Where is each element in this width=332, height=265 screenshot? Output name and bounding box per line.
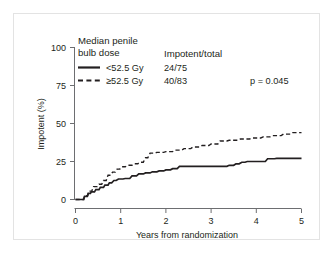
x-tick-label-3: 3: [209, 216, 214, 226]
figure-container: 100 75 50 25 0 0 1 2 3 4 5 Years from ra…: [0, 0, 332, 265]
stats-value-series-0: 24/75: [164, 63, 187, 73]
x-tick-label-0: 0: [73, 216, 78, 226]
legend: Median penile bulb dose <52.5 Gy ≥52.5 G…: [78, 35, 144, 86]
stats-header: Impotent/total: [164, 48, 222, 59]
y-tick-label-100: 100: [51, 43, 66, 53]
y-tick-label-25: 25: [56, 157, 66, 167]
y-tick-label-50: 50: [56, 119, 66, 129]
series-line-lt-52-5-gy: [76, 158, 302, 199]
y-tick-label-0: 0: [61, 195, 66, 205]
legend-title-line1: Median penile: [78, 35, 138, 46]
x-tick-label-5: 5: [299, 216, 304, 226]
legend-label-series-0: <52.5 Gy: [106, 63, 144, 73]
x-tick-label-4: 4: [254, 216, 259, 226]
y-axis-ticks: [70, 48, 75, 200]
stats-block: Impotent/total 24/75 40/83 p = 0.045: [164, 48, 289, 86]
y-tick-label-75: 75: [56, 81, 66, 91]
x-tick-label-1: 1: [118, 216, 123, 226]
x-axis-title: Years from randomization: [136, 230, 238, 240]
chart-canvas: 100 75 50 25 0 0 1 2 3 4 5 Years from ra…: [0, 0, 332, 265]
p-value-label: p = 0.045: [250, 76, 289, 86]
y-axis-title: Impotent (%): [36, 98, 46, 150]
legend-title-line2: bulb dose: [78, 47, 120, 58]
x-axis-ticks: [76, 209, 302, 214]
legend-label-series-1: ≥52.5 Gy: [106, 76, 144, 86]
x-tick-label-2: 2: [163, 216, 168, 226]
stats-value-series-1: 40/83: [164, 76, 187, 86]
